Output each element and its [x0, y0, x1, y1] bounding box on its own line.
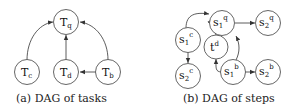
node-tb: Tb — [96, 60, 121, 85]
node-s1c: s1c — [176, 28, 201, 53]
node-s1q: s1q — [210, 11, 235, 36]
edge-tc-tq — [27, 22, 53, 60]
node-td: td — [204, 35, 228, 59]
node-tq: Tq — [54, 10, 79, 35]
dag-of-steps: s1q s2q s1c td s2c s1b s2b — [176, 11, 281, 89]
node-s2q: s2q — [256, 11, 281, 36]
edge-s1b-s1q — [236, 36, 239, 60]
dag-of-tasks: Tq Tc Td Tb — [15, 10, 121, 85]
node-tc: Tc — [15, 60, 40, 85]
node-td: Td — [54, 60, 79, 85]
edge-s1c-s1q — [186, 13, 209, 28]
node-s2b: s2b — [256, 60, 281, 85]
caption-a: (a) DAG of tasks — [16, 92, 107, 105]
node-s2c: s2c — [176, 64, 201, 89]
node-s1b: s1b — [221, 60, 246, 85]
edge-tb-tq — [80, 22, 108, 60]
caption-b: (b) DAG of steps — [183, 92, 275, 105]
